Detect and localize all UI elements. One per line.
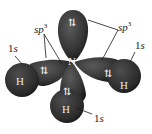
- electron-pair-bottom: ⇅: [63, 87, 69, 97]
- electron-pair-left: ⇅: [40, 66, 46, 76]
- hydrogen-symbol-bottom: H: [62, 104, 70, 115]
- 1s-label-left: 1s: [8, 43, 18, 54]
- hydrogen-symbol-left: H: [16, 76, 24, 87]
- sp3-label-right: sp3: [118, 22, 131, 33]
- electron-pair-right: ⇅: [104, 69, 110, 79]
- electron-pair-top: ⇅: [68, 18, 74, 28]
- 1s-label-bottom: 1s: [94, 113, 104, 124]
- 1s-label-right: 1s: [135, 40, 145, 51]
- sp3-label-left: sp3: [34, 24, 47, 35]
- nh3-orbital-diagram: sp3 sp3 1s 1s 1s N H H H ⇅ ⇅ ⇅ ⇅: [0, 0, 152, 134]
- nitrogen-symbol: N: [68, 56, 76, 67]
- hydrogen-symbol-right: H: [120, 80, 128, 91]
